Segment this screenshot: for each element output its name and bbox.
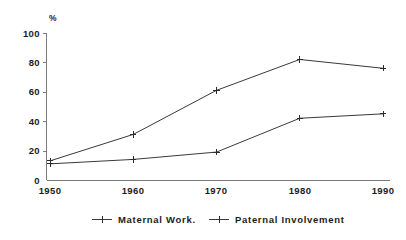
legend-item-paternal-involvement: Paternal Involvement [209,214,345,225]
series-line-maternal-work [50,59,383,160]
series-paternal-involvement [47,111,386,167]
y-tick-label-80: 80 [29,57,40,68]
series-markers-maternal-work [47,56,386,164]
x-tick-label-1980: 1980 [289,185,312,196]
y-tick-label-60: 60 [29,86,40,97]
line-chart-svg: % 100 80 60 40 20 0 1950 1960 1970 1980 … [0,0,406,240]
legend-label-paternal-involvement: Paternal Involvement [235,214,345,225]
x-tick-label-1970: 1970 [205,185,228,196]
x-tick-label-1960: 1960 [122,185,145,196]
y-tick-label-40: 40 [29,116,40,127]
chart-legend: Maternal Work. Paternal Involvement [92,214,345,225]
y-tick-label-100: 100 [23,28,40,39]
x-tick-label-1950: 1950 [39,185,62,196]
y-tick-label-0: 0 [34,175,40,186]
y-axis-unit-label: % [49,13,57,23]
y-tick-label-20: 20 [29,145,40,156]
x-tick-label-1990: 1990 [372,185,395,196]
legend-label-maternal-work: Maternal Work. [118,214,196,225]
series-line-paternal-involvement [50,114,383,164]
legend-item-maternal-work: Maternal Work. [92,214,196,225]
chart-figure: % 100 80 60 40 20 0 1950 1960 1970 1980 … [0,0,406,240]
series-markers-paternal-involvement [47,111,386,167]
series-maternal-work [47,56,386,164]
